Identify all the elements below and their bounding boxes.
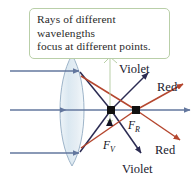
- focal-point-red-marker: [132, 106, 140, 114]
- callout-line-2: focus at different points.: [37, 40, 163, 54]
- focal-red-letter: F: [128, 119, 135, 131]
- focal-violet-letter: F: [103, 139, 110, 151]
- label-red-bottom: Red: [155, 144, 175, 157]
- callout-box: Rays of different wavelengths focus at d…: [29, 8, 170, 59]
- chromatic-aberration-figure: Rays of different wavelengths focus at d…: [0, 0, 195, 186]
- label-violet-bottom: Violet: [122, 163, 153, 176]
- label-violet-top: Violet: [119, 63, 150, 76]
- label-focal-violet: FV: [103, 140, 115, 154]
- focal-red-subscript: R: [135, 125, 140, 134]
- label-focal-red: FR: [128, 120, 140, 134]
- violet-ray-upper-diverging: [111, 73, 148, 110]
- focal-violet-subscript: V: [110, 145, 115, 154]
- focal-point-violet-marker: [107, 106, 115, 114]
- callout-leader-group: [104, 47, 117, 126]
- red-ray-lower-diverging: [136, 110, 180, 140]
- callout-line-1: Rays of different wavelengths: [37, 13, 163, 40]
- label-red-top: Red: [157, 81, 177, 94]
